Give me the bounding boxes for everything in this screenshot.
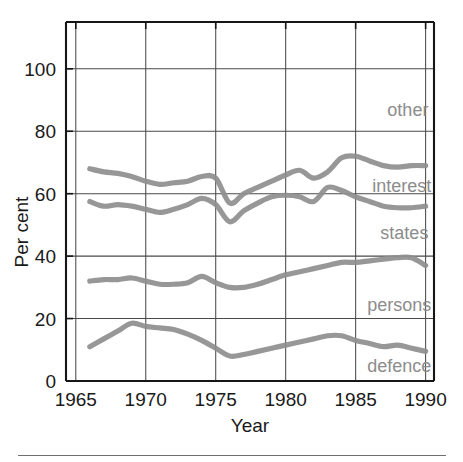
series-label-defence: defence: [367, 356, 431, 376]
y-tick-label: 20: [35, 309, 56, 330]
line-chart: 020406080100 196519701975198019851990 ot…: [0, 0, 463, 462]
x-tick-labels: 196519701975198019851990: [55, 389, 447, 410]
y-tick-label: 80: [35, 121, 56, 142]
series-labels: otherintereststatespersonsdefence: [367, 100, 431, 376]
y-tick-label: 40: [35, 246, 56, 267]
x-tick-label: 1990: [404, 389, 446, 410]
y-axis-title: Per cent: [11, 196, 32, 267]
y-tick-label: 100: [24, 59, 56, 80]
series-line-defence: [90, 323, 426, 356]
x-tick-label: 1985: [335, 389, 377, 410]
x-tick-label: 1965: [55, 389, 97, 410]
footer-divider: [18, 455, 446, 456]
chart-figure: 020406080100 196519701975198019851990 ot…: [0, 0, 463, 462]
y-tick-label: 60: [35, 184, 56, 205]
series-label-states: states: [380, 223, 428, 243]
series-label-other: other: [387, 100, 428, 120]
chart-title-fragment: [0, 0, 463, 11]
x-axis-title: Year: [231, 415, 270, 436]
x-tick-label: 1980: [265, 389, 307, 410]
series-label-persons: persons: [367, 295, 431, 315]
x-tick-label: 1975: [195, 389, 237, 410]
series-label-interest: interest: [372, 176, 431, 196]
series-line-states: [90, 257, 426, 288]
x-tick-label: 1970: [125, 389, 167, 410]
